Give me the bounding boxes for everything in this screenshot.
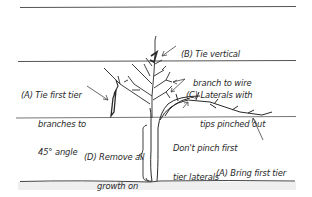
annotation-a-right: (A) Bring first tier branch into positio…	[216, 150, 310, 197]
annotation-d: (D) Remove all growth on trunk	[84, 134, 144, 197]
annotation-c-line1: (C) Laterals with	[186, 91, 265, 101]
annotation-a-left-line2: branches to	[21, 120, 86, 130]
middle-wire	[18, 61, 296, 62]
annotation-d-line1: (D) Remove all	[84, 153, 144, 163]
left-tied-branch	[111, 80, 118, 116]
annotation-a-left: (A) Tie first tier branches to 45° angle	[21, 72, 86, 177]
annotation-a-left-line1: (A) Tie first tier	[21, 91, 86, 101]
top-wire	[20, 7, 296, 8]
annotation-d-line2: growth on	[84, 182, 144, 192]
annotation-b-line1: (B) Tie vertical	[181, 50, 252, 60]
pruning-diagram: (B) Tie vertical branch to wire (A) Tie …	[0, 0, 312, 197]
annotation-a-right-line1: (A) Bring first tier	[216, 169, 310, 179]
annotation-a-left-line3: 45° angle	[21, 148, 86, 158]
